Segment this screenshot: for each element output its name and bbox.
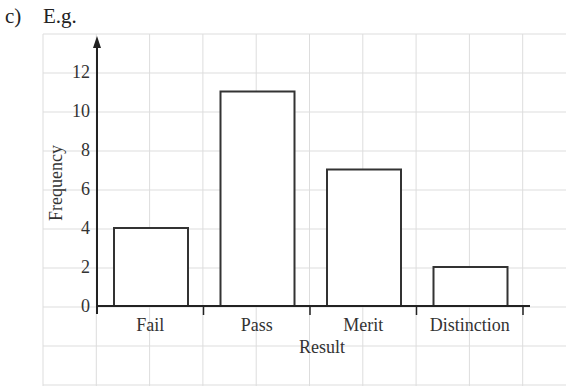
bar-fail — [114, 228, 188, 306]
svg-text:0: 0 — [81, 296, 90, 316]
x-axis-title: Result — [299, 337, 345, 357]
svg-text:12: 12 — [72, 62, 90, 82]
x-tick-labels: FailPassMeritDistinction — [136, 315, 510, 335]
svg-text:4: 4 — [81, 218, 90, 238]
svg-text:8: 8 — [81, 140, 90, 160]
svg-text:Distinction: Distinction — [430, 315, 510, 335]
svg-text:Merit: Merit — [343, 315, 383, 335]
svg-text:Fail: Fail — [136, 315, 164, 335]
bar-distinction — [434, 267, 508, 306]
bar-merit — [327, 170, 401, 307]
bars — [114, 92, 508, 307]
svg-text:Pass: Pass — [241, 315, 273, 335]
y-tick-labels: 024681012 — [72, 62, 90, 316]
svg-text:2: 2 — [81, 257, 90, 277]
bar-pass — [221, 92, 295, 307]
bar-chart: 024681012 FailPassMeritDistinction Resul… — [0, 0, 582, 391]
svg-text:6: 6 — [81, 179, 90, 199]
svg-text:10: 10 — [72, 101, 90, 121]
y-axis-title: Frequency — [46, 145, 66, 221]
